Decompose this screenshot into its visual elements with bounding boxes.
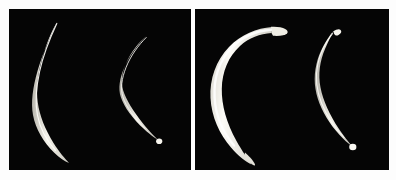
specimen-panel-b [195,9,389,170]
panel-a-canvas [9,9,191,170]
specimen-comparison-figure [0,0,396,180]
panel-b-background [195,9,389,170]
specimen-b2-tail-bulb [349,144,356,150]
panel-b-canvas [195,9,389,170]
specimen-a2-bulb-tip [156,138,162,144]
specimen-panel-a [9,9,191,170]
